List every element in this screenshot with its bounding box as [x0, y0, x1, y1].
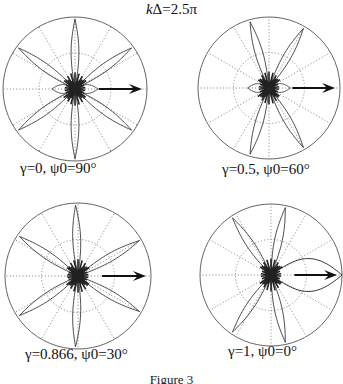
main-lobe [73, 276, 81, 347]
main-lobe [73, 205, 81, 276]
polar-plots [0, 0, 343, 384]
grid-spoke [271, 275, 332, 311]
grid-spoke [210, 240, 271, 276]
grid-spoke [210, 275, 271, 311]
grid-spoke [15, 240, 78, 277]
center-dot [74, 272, 82, 280]
grid-spoke [15, 276, 78, 313]
center-dot [71, 85, 79, 93]
plot-label-2: γ=0.5, ψ0=60° [222, 161, 310, 178]
plot-label-3: γ=0.866, ψ0=30° [25, 346, 128, 363]
grid-spoke [78, 240, 141, 277]
grid-spoke [78, 276, 141, 313]
grid-spoke [269, 88, 330, 124]
center-dot [267, 271, 275, 279]
center-dot [265, 84, 273, 92]
figure-caption: Figure 3 [0, 372, 343, 384]
figure-page: kΔ=2.5π γ=0, ψ0=90° γ=0.5, ψ0=60° γ=0.86… [0, 0, 343, 384]
grid-spoke [269, 53, 330, 89]
grid-spoke [208, 53, 269, 89]
grid-spoke [208, 88, 269, 124]
grid-spoke [271, 240, 332, 276]
plot-label-4: γ=1, ψ0=0° [228, 343, 297, 360]
plot-label-1: γ=0, ψ0=90° [20, 160, 96, 177]
